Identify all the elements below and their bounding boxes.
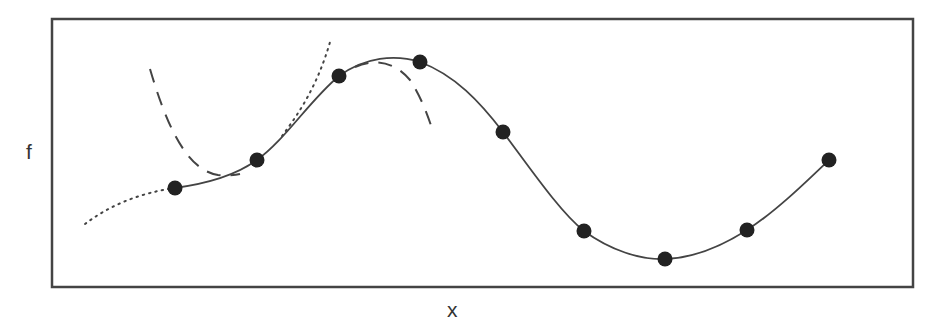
x-axis-label: x (447, 298, 458, 322)
dotted-approximation-rising (282, 42, 330, 136)
dashed-approximation-left (150, 69, 240, 175)
sample-point (250, 153, 265, 168)
sample-point (577, 224, 592, 239)
sample-point (658, 252, 673, 267)
sample-point (168, 181, 183, 196)
plot-frame (52, 19, 913, 287)
sample-point (740, 223, 755, 238)
interpolant-curve (175, 58, 829, 259)
dashed-approximation-peak (355, 62, 433, 132)
sample-point (822, 153, 837, 168)
sample-point (496, 125, 511, 140)
dotted-approximation-left (85, 188, 175, 224)
sample-point (413, 55, 428, 70)
diagram-canvas (0, 0, 928, 331)
y-axis-label: f (26, 140, 32, 164)
sample-points (168, 55, 837, 267)
sample-point (332, 69, 347, 84)
